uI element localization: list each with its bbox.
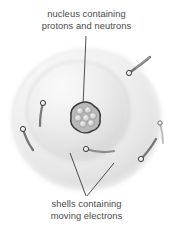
shells-label: shells containing moving electrons [0, 198, 173, 221]
shells-label-line-1: shells containing [0, 198, 173, 210]
atom-diagram-graphic [0, 0, 173, 228]
nucleus [71, 102, 101, 133]
shells-label-line-2: moving electrons [0, 210, 173, 222]
atom-structure-figure: nucleus containing protons and neutrons [0, 0, 173, 228]
